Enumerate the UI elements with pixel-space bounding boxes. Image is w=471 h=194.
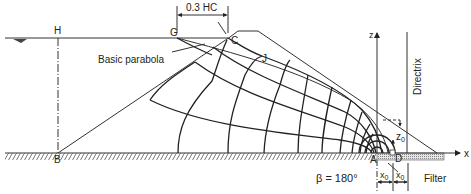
label-h: H [54,25,61,36]
label-g: G [170,27,178,38]
filter-drain [377,153,444,172]
label-filter: Filter [424,173,447,184]
label-c: C [231,35,238,46]
label-a: A [370,154,377,165]
label-x0-left: x0 [380,170,389,181]
label-b: B [54,154,61,165]
water-level-icon [13,39,27,43]
label-beta: β = 180° [316,172,358,184]
label-x0-right: x0 [396,170,405,181]
label-x-axis: x [464,148,469,159]
label-j: J [262,53,267,64]
label-d: D [395,153,402,164]
flow-net-diagram: H G C J B A D z x Basic parabola 0.3 HC … [0,0,471,194]
label-dimension-gc: 0.3 HC [186,2,217,13]
ground [5,153,377,160]
label-z0: z0 [396,131,405,143]
label-z-axis: z [369,30,374,40]
label-directrix: Directrix [412,58,423,95]
basic-parabola-pointer [172,44,205,52]
label-basic-parabola: Basic parabola [98,54,165,65]
